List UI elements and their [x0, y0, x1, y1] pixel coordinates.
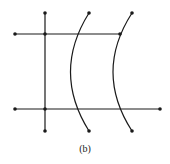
node-dot: [130, 129, 134, 133]
node-dots: [13, 11, 162, 133]
figure-caption: (b): [0, 143, 170, 154]
arc-left: [71, 13, 90, 131]
node-dot: [130, 11, 134, 15]
node-dot: [13, 32, 17, 36]
node-dot: [43, 107, 47, 111]
node-dot: [118, 32, 122, 36]
node-dot: [43, 32, 47, 36]
node-dot: [43, 11, 47, 15]
node-dot: [43, 129, 47, 133]
node-dot: [87, 129, 91, 133]
arc-right: [113, 13, 132, 131]
node-dot: [13, 107, 17, 111]
diagram-canvas: [0, 0, 170, 164]
node-dot: [158, 107, 162, 111]
curved-arcs: [71, 13, 133, 131]
straight-lines: [15, 13, 160, 131]
node-dot: [87, 11, 91, 15]
